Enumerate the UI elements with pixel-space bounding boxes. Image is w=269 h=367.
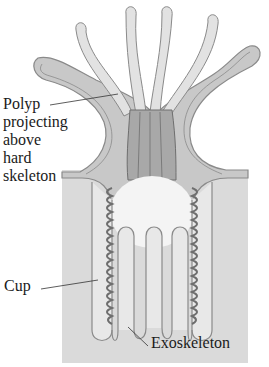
polyp-label-line-5: skeleton <box>3 167 68 185</box>
tentacle-3 <box>150 7 172 114</box>
polyp-label-line-3: above <box>3 131 68 149</box>
central-fingers <box>118 227 188 330</box>
polyp-label-line-4: hard <box>3 149 68 167</box>
polyp-label-line-2: projecting <box>3 113 68 131</box>
polyp-label: Polyp projecting above hard skeleton <box>3 95 68 185</box>
exoskeleton-label: Exoskeleton <box>151 334 230 352</box>
polyp-label-line-1: Polyp <box>3 95 68 113</box>
cup-label: Cup <box>4 277 31 295</box>
central-stalk <box>127 110 176 180</box>
